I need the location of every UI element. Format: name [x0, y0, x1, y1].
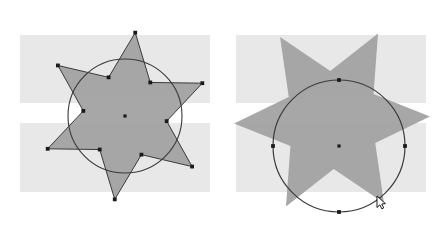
anchor-top[interactable] — [337, 78, 341, 82]
star-tip-anchor[interactable] — [133, 31, 137, 35]
star-tip-anchor[interactable] — [56, 64, 60, 68]
star-valley-anchor[interactable] — [140, 153, 144, 157]
left-panel[interactable] — [0, 0, 220, 225]
star-tip-anchor[interactable] — [200, 81, 204, 85]
right-panel[interactable] — [220, 0, 441, 225]
right-panel-drawing[interactable] — [220, 0, 441, 225]
star-valley-anchor[interactable] — [107, 75, 111, 79]
illustration-canvas — [0, 0, 441, 225]
anchor-right[interactable] — [403, 144, 407, 148]
star-valley-anchor[interactable] — [165, 119, 169, 123]
anchor-bottom[interactable] — [337, 210, 341, 214]
star-valley-anchor[interactable] — [148, 81, 152, 85]
left-panel-drawing[interactable] — [0, 0, 220, 225]
star-valley-anchor[interactable] — [98, 148, 102, 152]
star-tip-anchor[interactable] — [46, 147, 50, 151]
center-marker — [123, 114, 126, 117]
star-tip-anchor[interactable] — [113, 197, 117, 201]
star-valley-anchor[interactable] — [81, 109, 85, 113]
center-marker — [337, 144, 340, 147]
star-tip-anchor[interactable] — [190, 165, 194, 169]
anchor-left[interactable] — [271, 144, 275, 148]
